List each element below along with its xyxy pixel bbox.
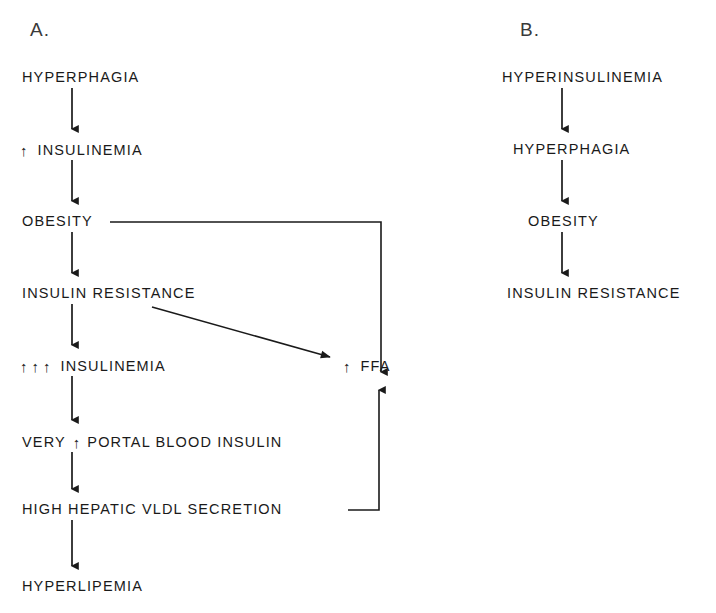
node-insulin-resistance-label: INSULIN RESISTANCE <box>22 285 196 301</box>
node-high-hepatic-vldl-secretion: HIGH HEPATIC VLDL SECRETION <box>22 502 282 517</box>
node-insulin-resistance: INSULIN RESISTANCE <box>22 286 196 301</box>
node-portal-prefix: VERY <box>22 434 66 450</box>
node-b-obesity-label: OBESITY <box>528 213 599 229</box>
up-arrow-icon: ↑ <box>20 142 28 159</box>
node-increased-insulinemia: ↑INSULINEMIA <box>20 142 143 158</box>
up-arrow-icon: ↑ <box>43 358 51 375</box>
panel-b-label: B. <box>520 20 540 39</box>
up-arrow-icon: ↑ <box>32 358 40 375</box>
node-triple-increased-insulinemia: ↑↑↑INSULINEMIA <box>20 358 166 374</box>
node-b-hyperphagia: HYPERPHAGIA <box>513 142 630 157</box>
node-b-obesity: OBESITY <box>528 214 599 229</box>
up-arrow-icon: ↑ <box>343 358 351 375</box>
node-b-insulin-resistance-label: INSULIN RESISTANCE <box>507 285 681 301</box>
node-b-insulin-resistance: INSULIN RESISTANCE <box>507 286 681 301</box>
node-very-increased-portal-blood-insulin: VERY↑PORTAL BLOOD INSULIN <box>22 434 283 450</box>
node-increased-ffa: ↑FFA <box>343 358 391 374</box>
node-hyperphagia-label: HYPERPHAGIA <box>22 69 139 85</box>
panel-a-label: A. <box>30 20 50 39</box>
node-b-hyperinsulinemia-label: HYPERINSULINEMIA <box>502 69 663 85</box>
up-arrow-icon: ↑ <box>20 358 28 375</box>
node-triple-increased-insulinemia-label: INSULINEMIA <box>61 358 166 374</box>
up-arrow-icon: ↑ <box>73 434 81 451</box>
node-high-hepatic-vldl-secretion-label: HIGH HEPATIC VLDL SECRETION <box>22 501 282 517</box>
node-b-hyperphagia-label: HYPERPHAGIA <box>513 141 630 157</box>
node-very-increased-portal-blood-insulin-label: PORTAL BLOOD INSULIN <box>87 434 282 450</box>
edge-insulin-resistance-to-ffa-diagonal <box>152 307 330 357</box>
edge-vldl-secretion-to-ffa-elbow <box>348 390 379 510</box>
node-hyperphagia: HYPERPHAGIA <box>22 70 139 85</box>
diagram-canvas: A. HYPERPHAGIA ↑INSULINEMIA OBESITY INSU… <box>0 0 716 613</box>
node-increased-insulinemia-label: INSULINEMIA <box>38 142 143 158</box>
node-obesity-label: OBESITY <box>22 213 93 229</box>
node-increased-ffa-label: FFA <box>361 358 391 374</box>
node-obesity: OBESITY <box>22 214 93 229</box>
node-hyperlipemia-label: HYPERLIPEMIA <box>22 578 143 594</box>
node-hyperlipemia: HYPERLIPEMIA <box>22 579 143 594</box>
node-b-hyperinsulinemia: HYPERINSULINEMIA <box>502 70 663 85</box>
connector-layer <box>0 0 716 613</box>
